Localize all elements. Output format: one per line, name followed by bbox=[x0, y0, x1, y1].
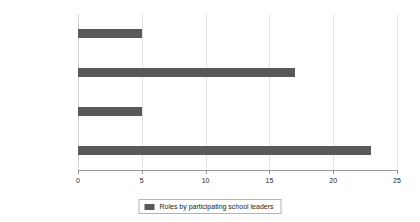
bar-row: Other bbox=[78, 14, 397, 53]
x-tick-10 bbox=[206, 170, 207, 174]
x-tick-label-5: 5 bbox=[127, 176, 157, 185]
x-tick-15 bbox=[269, 170, 270, 174]
x-tick-25 bbox=[397, 170, 398, 174]
x-tick-label-15: 15 bbox=[254, 176, 284, 185]
bar-row: Business Manager bbox=[78, 53, 397, 92]
legend-label: Roles by participating school leaders bbox=[159, 202, 273, 211]
bar-row: Principal bbox=[78, 131, 397, 170]
bar-deputy-principal bbox=[78, 107, 142, 116]
x-tick-label-0: 0 bbox=[63, 176, 93, 185]
bar-business-manager bbox=[78, 68, 295, 77]
gridline-25 bbox=[397, 14, 398, 170]
x-tick-label-25: 25 bbox=[382, 176, 412, 185]
x-axis-line bbox=[78, 170, 398, 171]
x-tick-20 bbox=[333, 170, 334, 174]
plot-area: OtherBusiness ManagerDeputy PrincipalPri… bbox=[78, 14, 397, 170]
x-tick-label-20: 20 bbox=[318, 176, 348, 185]
bar-chart: OtherBusiness ManagerDeputy PrincipalPri… bbox=[0, 0, 420, 222]
x-tick-5 bbox=[142, 170, 143, 174]
x-tick-label-10: 10 bbox=[191, 176, 221, 185]
bar-principal bbox=[78, 146, 371, 155]
chart-legend: Roles by participating school leaders bbox=[138, 199, 281, 214]
legend-swatch-icon bbox=[144, 204, 154, 210]
x-tick-0 bbox=[78, 170, 79, 174]
bar-other bbox=[78, 29, 142, 38]
bar-row: Deputy Principal bbox=[78, 92, 397, 131]
